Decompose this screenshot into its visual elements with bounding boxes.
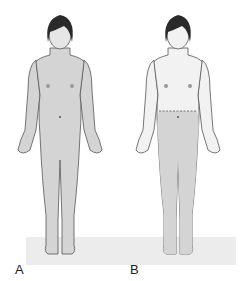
panel-label-a: A [15,262,24,277]
body-figure-b [118,0,238,281]
body-figure-a [0,0,120,281]
panel-label-b: B [130,262,139,277]
figure-b: B [118,0,238,281]
figure-a: A [0,0,120,281]
